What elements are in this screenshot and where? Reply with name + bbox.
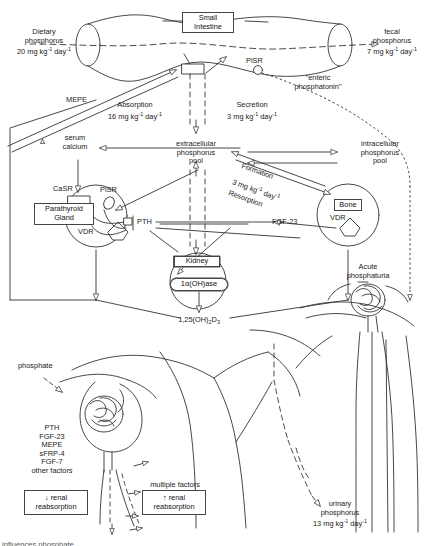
secretion-title: Secretion	[227, 101, 277, 110]
secretion-rate: 3 mg kg-1 day-1	[227, 110, 277, 122]
acute-phosphaturia-label: Acute phosphaturia	[347, 263, 390, 280]
extracellular-pool-label: extracellular phosphorus pool	[176, 140, 216, 166]
bone-vdr-label: VDR	[330, 214, 346, 223]
phosphate-label: phosphate	[18, 362, 53, 371]
enteric-phosphatonin-label: "enteric phosphatonin"	[294, 74, 341, 91]
intestinal-pisr-label: PiSR	[246, 57, 263, 66]
absorption-rate: 16 mg kg-1 day-1	[108, 110, 162, 122]
serum-calcium-label: serum calcium	[62, 134, 87, 151]
ecf-line3: pool	[176, 157, 216, 166]
1alpha-hydroxylase-label: 1α(OH)ase	[181, 280, 217, 289]
fecal-rate: 7 mg kg-1 day-1	[367, 45, 417, 57]
bone-cell-outline	[317, 184, 379, 246]
urine-line2: phosphorus	[313, 509, 367, 518]
secretion-label: Secretion 3 mg kg-1 day-1	[227, 101, 277, 122]
kidney-box: Kidney	[174, 256, 220, 267]
parathyroid-gland-box: Parathyroid Gland	[34, 203, 94, 225]
decrease-line2: reabsorption	[35, 503, 76, 512]
decreased-renal-reabsorption-box: ↓ renal reabsorption	[24, 490, 88, 515]
left-nephron-factor-list: PTH FGF-23 MEPE sFRP-4 FGF-7 other facto…	[31, 424, 72, 476]
absorption-label: Absorption 16 mg kg-1 day-1	[108, 101, 162, 122]
ecf-to-parathyroid-pisr	[116, 170, 198, 210]
dietary-flow-path	[30, 43, 378, 49]
serum-calcium-delta: Δ	[40, 138, 45, 147]
small-intestine-box: Small Intestine	[182, 12, 234, 33]
1alpha-hydroxylase-box: 1α(OH)ase	[170, 278, 228, 291]
parathyroid-pisr-label: PiSR	[100, 186, 117, 195]
dietary-phosphorus-label: Dietary phosphorus 20 mg kg-1 day-1	[17, 28, 71, 57]
phosphatonin-line2: phosphatonin"	[294, 83, 341, 92]
right-nephron-drawing	[300, 284, 418, 532]
pth-to-kidney	[150, 231, 178, 252]
fecal-phosphorus-label: fecal phosphorus 7 mg kg-1 day-1	[367, 28, 417, 57]
kidney-label: Kidney	[186, 257, 209, 266]
serum-calcium-line2: calcium	[62, 143, 87, 152]
factor-other: other factors	[31, 467, 72, 476]
fecal-line2: phosphorus	[367, 37, 417, 46]
down-arrow-icon: ↓	[45, 493, 49, 502]
kidney-link-curve	[250, 330, 320, 356]
multiple-factors-label: multiple factors	[150, 481, 200, 490]
bone-label: Bone	[339, 201, 356, 210]
parathyroid-vdr-label: VDR	[78, 228, 94, 237]
up-arrow-icon: ↑	[163, 493, 167, 502]
absorption-title: Absorption	[108, 101, 162, 110]
small-intestine-label-2: Intestine	[194, 23, 222, 32]
icf-line3: pool	[361, 157, 400, 166]
acute-line2: phosphaturia	[347, 272, 390, 281]
pth-label: PTH	[137, 218, 152, 227]
phosphate-inflow-arrow	[44, 378, 62, 392]
dietary-rate: 20 mg kg-1 day-1	[17, 45, 71, 57]
figure-canvas: Small Intestine Dietary phosphorus 20 mg…	[0, 0, 428, 546]
dietary-line2: phosphorus	[17, 37, 71, 46]
calcitriol-label: 1,25(OH)2D3	[178, 316, 220, 327]
increased-renal-reabsorption-box: ↑ renal reabsorption	[142, 490, 206, 515]
increase-line2: reabsorption	[153, 503, 194, 512]
mepe-label: MEPE	[66, 96, 87, 105]
casr-label: CaSR	[53, 185, 73, 194]
fgf23-label: FGF-23	[272, 218, 297, 227]
intracellular-pool-label: intracellular phosphorus pool	[361, 140, 400, 166]
bone-box: Bone	[334, 199, 362, 211]
parathyroid-line2: Gland	[54, 214, 74, 223]
figure-caption: influences phosphate	[0, 540, 428, 546]
urine-rate: 13 mg kg-1 day-1	[313, 517, 367, 529]
pisr-receptor	[102, 195, 117, 211]
urinary-phosphorus-label: urinary phosphorus 13 mg kg-1 day-1	[313, 500, 367, 529]
